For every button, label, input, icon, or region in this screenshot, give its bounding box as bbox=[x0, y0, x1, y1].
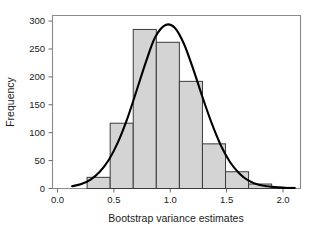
histogram-chart: 0 50 100 150 200 250 300 0.0 0.5 1.0 1.5… bbox=[0, 0, 313, 239]
x-tick-label-0: 0.0 bbox=[51, 194, 64, 205]
x-tick-label-4: 2.0 bbox=[276, 194, 289, 205]
histogram-bar bbox=[202, 144, 225, 189]
y-tick-label-50: 50 bbox=[34, 155, 45, 166]
y-tick-label-0: 0 bbox=[40, 183, 45, 194]
x-axis-title: Bootstrap variance estimates bbox=[108, 212, 243, 224]
chart-figure: 0 50 100 150 200 250 300 0.0 0.5 1.0 1.5… bbox=[0, 0, 313, 239]
y-tick-label-150: 150 bbox=[29, 99, 45, 110]
x-tick-label-3: 1.5 bbox=[220, 194, 233, 205]
y-tick-label-100: 100 bbox=[29, 127, 45, 138]
x-tick-label-1: 0.5 bbox=[107, 194, 120, 205]
histogram-bar bbox=[226, 172, 249, 189]
y-tick-label-200: 200 bbox=[29, 71, 45, 82]
y-tick-label-300: 300 bbox=[29, 15, 45, 26]
histogram-bar bbox=[156, 42, 179, 188]
histogram-bar bbox=[179, 81, 202, 188]
histogram-bar bbox=[133, 29, 156, 188]
y-axis-title: Frequency bbox=[4, 76, 16, 126]
x-tick-label-2: 1.0 bbox=[164, 194, 177, 205]
y-tick-label-250: 250 bbox=[29, 43, 45, 54]
